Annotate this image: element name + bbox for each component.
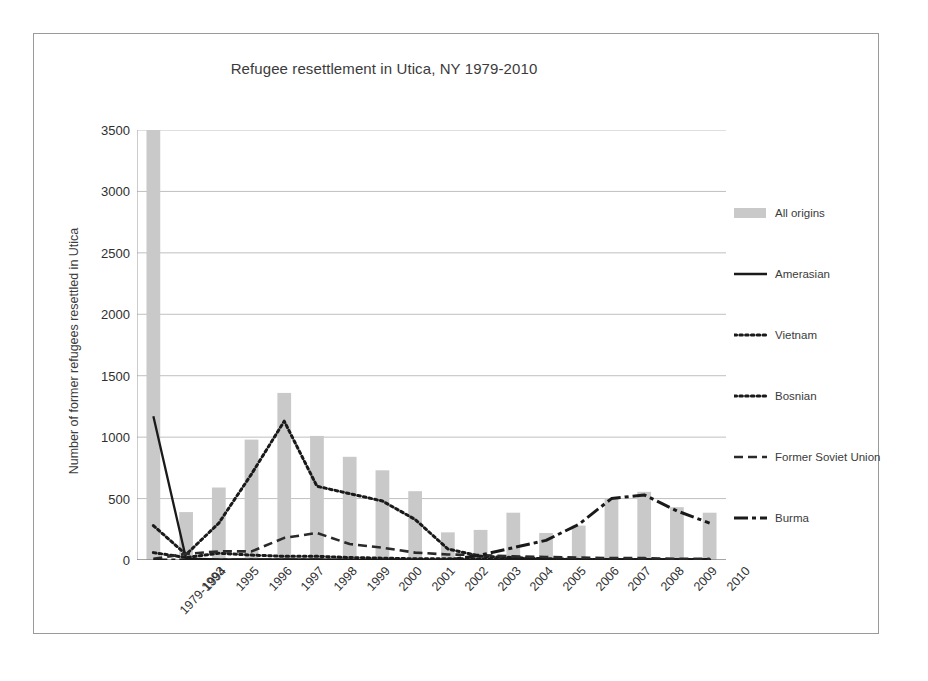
- legend-key-icon: [734, 450, 768, 464]
- legend-line-sample: [734, 453, 768, 461]
- legend-item[interactable]: Vietnam: [734, 326, 817, 344]
- legend-key-icon: [734, 267, 768, 281]
- legend-item[interactable]: Former Soviet Union: [734, 448, 880, 466]
- legend-key-icon: [734, 511, 768, 525]
- x-tick-label: 2005: [560, 564, 589, 594]
- bar: [637, 492, 651, 560]
- chart-title: Refugee resettlement in Utica, NY 1979-2…: [34, 60, 734, 77]
- legend-line-sample: [734, 270, 768, 278]
- series-line: [153, 416, 709, 560]
- x-tick-label: 2008: [658, 564, 687, 594]
- x-tick-label: 1996: [265, 564, 294, 594]
- bar: [146, 130, 160, 560]
- y-tick-label: 2500: [84, 245, 130, 260]
- legend-item[interactable]: All origins: [734, 204, 825, 222]
- legend-item-label: Vietnam: [775, 329, 817, 341]
- x-tick-label: 2009: [691, 564, 720, 594]
- bar: [245, 440, 259, 560]
- y-tick-label: 3500: [84, 123, 130, 138]
- legend-item[interactable]: Bosnian: [734, 387, 817, 405]
- legend-item-label: Bosnian: [775, 390, 817, 402]
- x-tick-label: 2004: [527, 564, 556, 594]
- legend-key-icon: [734, 328, 768, 342]
- legend-item[interactable]: Amerasian: [734, 265, 830, 283]
- x-tick-label: 2001: [429, 564, 458, 594]
- chart-figure: Refugee resettlement in Utica, NY 1979-2…: [33, 33, 879, 634]
- legend-item[interactable]: Burma: [734, 509, 809, 527]
- bar: [670, 507, 684, 560]
- y-tick-label: 0: [84, 553, 130, 568]
- legend-line-sample: [734, 331, 768, 339]
- x-axis-tick-labels: 1979-19931994199519961997199819992000200…: [137, 564, 726, 644]
- legend-line-sample: [734, 514, 768, 522]
- y-tick-label: 2000: [84, 307, 130, 322]
- bar: [572, 526, 586, 560]
- bar: [506, 513, 520, 560]
- bar: [310, 436, 324, 560]
- legend-item-label: Former Soviet Union: [775, 451, 880, 463]
- y-tick-label: 3000: [84, 184, 130, 199]
- plot-area: [137, 130, 726, 560]
- legend-key-icon: [734, 389, 768, 403]
- x-tick-label: 1998: [331, 564, 360, 594]
- y-axis-tick-labels: 0500100015002000250030003500: [78, 130, 130, 560]
- legend-item-label: All origins: [775, 207, 825, 219]
- x-tick-label: 1994: [200, 564, 229, 594]
- bar: [277, 393, 291, 560]
- y-tick-label: 1000: [84, 430, 130, 445]
- x-tick-label: 2007: [625, 564, 654, 594]
- legend-item-label: Burma: [775, 512, 809, 524]
- plot-svg: [137, 130, 726, 560]
- bar: [703, 513, 717, 560]
- x-tick-label: 2002: [462, 564, 491, 594]
- x-tick-label: 1997: [298, 564, 327, 594]
- legend-item-label: Amerasian: [775, 268, 830, 280]
- series-line: [153, 495, 709, 560]
- x-tick-label: 2006: [593, 564, 622, 594]
- x-tick-label: 2000: [396, 564, 425, 594]
- x-tick-label: 1995: [233, 564, 262, 594]
- legend-swatch: [734, 208, 766, 218]
- legend-key-icon: [734, 206, 768, 220]
- y-tick-label: 500: [84, 491, 130, 506]
- bar: [605, 499, 619, 560]
- y-tick-label: 1500: [84, 368, 130, 383]
- x-tick-label: 1999: [364, 564, 393, 594]
- x-tick-label: 2003: [494, 564, 523, 594]
- series-line: [153, 421, 709, 559]
- x-tick-label: 2010: [723, 564, 752, 594]
- legend-line-sample: [734, 392, 768, 400]
